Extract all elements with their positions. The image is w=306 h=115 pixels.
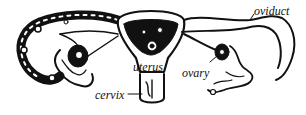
- label-oviduct: oviduct: [254, 5, 289, 17]
- anatomy-diagram: oviduct uterus ovary cervix: [0, 0, 306, 115]
- label-uterus: uterus: [133, 61, 163, 73]
- label-ovary: ovary: [182, 67, 209, 79]
- label-cervix: cervix: [95, 89, 124, 101]
